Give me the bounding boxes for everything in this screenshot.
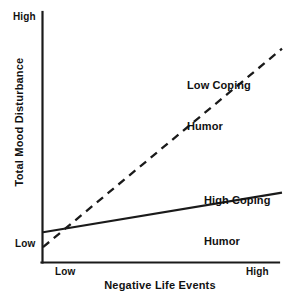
- series-label-high-coping-humor-line2: Humor: [204, 235, 270, 249]
- series-label-high-coping-humor-line1: High Coping: [204, 194, 270, 208]
- series-label-low-coping-humor-line2: Humor: [187, 120, 251, 134]
- x-axis-title: Negative Life Events: [42, 279, 278, 292]
- series-label-high-coping-humor: High Coping Humor: [204, 166, 270, 276]
- chart-figure: High Low Low High Total Mood Disturbance…: [0, 0, 288, 299]
- series-label-low-coping-humor-line1: Low Coping: [187, 79, 251, 93]
- y-axis-title: Total Mood Disturbance: [13, 0, 27, 247]
- x-axis-tick-low: Low: [55, 266, 75, 278]
- series-label-low-coping-humor: Low Coping Humor: [187, 51, 251, 161]
